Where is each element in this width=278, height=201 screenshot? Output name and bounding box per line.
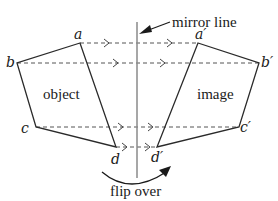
object-label: object — [43, 86, 80, 102]
arrowhead-icon — [139, 25, 152, 34]
flip-over-label: flip over — [110, 183, 161, 199]
vertex-label-b-prime: b′ — [261, 54, 274, 70]
image-label: image — [197, 86, 234, 102]
vertex-label-d: d — [111, 151, 120, 167]
vertex-label-c-prime: c′ — [240, 119, 252, 135]
vertex-label-c: c — [21, 120, 29, 136]
vertex-label-b: b — [6, 54, 15, 70]
reflection-diagram: mirror line object image a b c d a′ b′ c… — [0, 0, 278, 201]
mirror-label-arrow — [139, 22, 170, 34]
vertex-label-d-prime: d′ — [151, 149, 164, 165]
vertex-label-a: a — [74, 26, 82, 42]
vertex-label-a-prime: a′ — [195, 26, 207, 42]
